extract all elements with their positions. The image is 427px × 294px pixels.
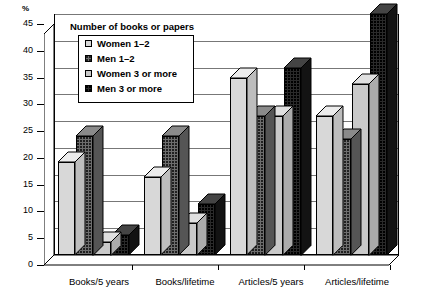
- bar-side-face: [247, 68, 257, 256]
- x-axis-tick: [132, 265, 133, 270]
- legend-swatch-icon: [85, 70, 92, 77]
- y-axis-tick: [37, 104, 44, 105]
- legend-item: Men 1–2: [79, 51, 193, 66]
- x-axis-tick: [390, 265, 391, 270]
- bar-side-face: [333, 106, 343, 256]
- bar-side-face: [301, 58, 311, 256]
- bar-side-face: [351, 129, 361, 256]
- legend-item: Men 3 or more: [79, 81, 193, 96]
- legend-item-label: Women 1–2: [97, 38, 150, 49]
- y-axis-tick-label: 25: [11, 125, 33, 135]
- legend-item-label: Women 3 or more: [97, 68, 177, 79]
- bar-side-face: [75, 152, 85, 256]
- bar-top-face: [370, 4, 387, 14]
- bar-top-face: [284, 58, 301, 68]
- bar: [230, 78, 247, 255]
- bar-side-face: [179, 126, 189, 256]
- legend: Women 1–2Men 1–2Women 3 or moreMen 3 or …: [78, 35, 194, 103]
- legend-item: Women 1–2: [79, 36, 193, 51]
- bar-side-face: [387, 4, 397, 256]
- y-axis-tick: [37, 131, 44, 132]
- bar-top-face: [162, 126, 179, 136]
- bar-front-face: [58, 162, 75, 255]
- y-axis-tick: [37, 238, 44, 239]
- y-axis-tick: [37, 78, 44, 79]
- bar-front-face: [230, 78, 247, 255]
- legend-item: Women 3 or more: [79, 66, 193, 81]
- bar: [58, 162, 75, 255]
- legend-item-label: Men 1–2: [97, 53, 135, 64]
- y-axis-tick-label: 35: [11, 72, 33, 82]
- bar-side-face: [161, 167, 171, 256]
- y-axis-tick: [37, 51, 44, 52]
- bar-side-face: [265, 106, 275, 256]
- y-axis-tick-label: 30: [11, 98, 33, 108]
- bar-top-face: [316, 106, 333, 116]
- bar-top-face: [144, 167, 161, 177]
- y-axis-tick-label: 5: [11, 232, 33, 242]
- y-axis-unit-label: %: [22, 4, 29, 13]
- legend-swatch-icon: [85, 55, 92, 62]
- legend-swatch-icon: [85, 85, 92, 92]
- y-axis-tick-label: 45: [11, 18, 33, 28]
- y-axis-tick-label: 20: [11, 152, 33, 162]
- y-axis-tick: [37, 24, 44, 25]
- x-axis-tick: [304, 265, 305, 270]
- bar-top-face: [230, 68, 247, 78]
- y-axis-tick: [37, 211, 44, 212]
- bar-chart: % Number of books or papers Women 1–2Men…: [0, 0, 427, 294]
- bar-top-face: [352, 74, 369, 84]
- x-axis-category-label: Articles/lifetime: [302, 276, 412, 287]
- y-axis-tick-label: 15: [11, 179, 33, 189]
- legend-swatch-icon: [85, 40, 92, 47]
- bar-top-face: [198, 194, 215, 204]
- y-axis-tick-label: 0: [11, 259, 33, 269]
- y-axis-tick-label: 40: [11, 45, 33, 55]
- bar-side-face: [283, 106, 293, 256]
- y-axis-tick: [37, 185, 44, 186]
- bar: [144, 177, 161, 255]
- bar-top-face: [58, 152, 75, 162]
- legend-title: Number of books or papers: [70, 21, 194, 32]
- bar-front-face: [316, 116, 333, 255]
- bar-side-face: [93, 126, 103, 256]
- y-axis-tick-label: 10: [11, 205, 33, 215]
- x-axis-tick: [218, 265, 219, 270]
- legend-item-label: Men 3 or more: [97, 83, 162, 94]
- bar: [316, 116, 333, 255]
- bar-front-face: [144, 177, 161, 255]
- y-axis-tick: [37, 158, 44, 159]
- bar-side-face: [369, 74, 379, 256]
- bar-top-face: [76, 126, 93, 136]
- y-axis-tick: [37, 265, 44, 266]
